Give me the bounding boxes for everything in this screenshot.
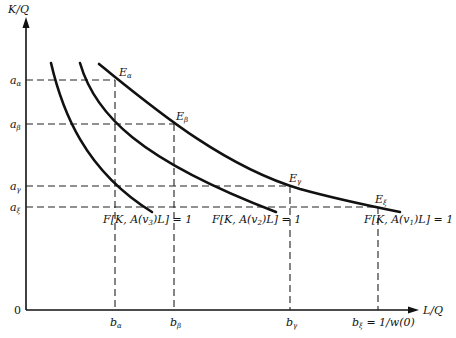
isoquant-diagram: K/Q L/Q 0 aα aβ aγ aξ bα bβ bγ bξ = 1/w(… xyxy=(0,0,456,338)
y-tick-labels: aα aβ aγ aξ xyxy=(10,74,22,215)
y-tick-a-xi: aξ xyxy=(10,201,22,215)
curve-label-v2: F[K, A(v2)L] = 1 xyxy=(211,213,301,227)
isoquant-v1-curve xyxy=(99,64,400,212)
isoquant-v2-curve xyxy=(80,63,276,212)
point-e-gamma: Eγ xyxy=(288,172,302,186)
x-tick-labels: bα bβ bγ bξ = 1/w(0) xyxy=(110,316,415,330)
point-e-alpha: Eα xyxy=(118,66,132,80)
y-axis-arrow-icon xyxy=(23,17,30,28)
origin-label: 0 xyxy=(14,304,21,317)
x-tick-b-xi: bξ = 1/w(0) xyxy=(352,316,415,330)
x-axis-label: L/Q xyxy=(422,304,443,317)
isoquant-v3-curve xyxy=(51,63,152,212)
y-axis-label: K/Q xyxy=(7,3,29,16)
x-axis-arrow-icon xyxy=(408,307,419,314)
curve-label-v3: F[K, A(v3)L] = 1 xyxy=(102,213,192,227)
x-tick-b-alpha: bα xyxy=(110,316,122,330)
point-e-xi: Eξ xyxy=(374,193,388,207)
axes: K/Q L/Q 0 xyxy=(7,3,443,317)
curve-labels: F[K, A(v3)L] = 1 F[K, A(v2)L] = 1 F[K, A… xyxy=(102,213,453,227)
point-e-beta: Eβ xyxy=(175,110,188,124)
y-tick-a-beta: aβ xyxy=(10,118,21,132)
isoquant-curves xyxy=(51,63,400,212)
y-tick-a-alpha: aα xyxy=(10,74,22,88)
x-tick-b-gamma: bγ xyxy=(286,316,298,330)
x-tick-b-beta: bβ xyxy=(170,316,181,330)
curve-label-v1: F[K, A(v1)L] = 1 xyxy=(363,213,453,227)
y-tick-a-gamma: aγ xyxy=(10,180,22,194)
